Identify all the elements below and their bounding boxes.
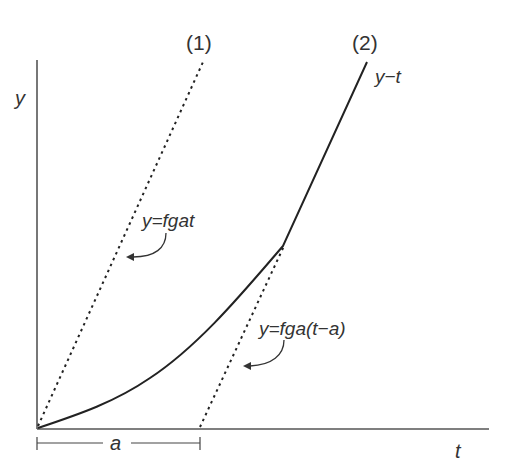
curve-2-label: (2) [352, 31, 378, 54]
kinematics-diagram: y t (1) (2) y−t y=fgat y=fga(t−a) a [0, 0, 508, 473]
curve-2-solid [38, 62, 367, 428]
pointer-arrow-1 [133, 233, 166, 257]
x-axis-label: t [455, 440, 462, 462]
curve-1-dotted-line [38, 62, 203, 426]
curve-1-label: (1) [186, 31, 212, 54]
pointer-arrow-2 [250, 340, 284, 366]
y-axis-label: y [13, 87, 26, 109]
equation-2: y=fga(t−a) [257, 318, 346, 339]
arrowhead-1-icon [126, 253, 134, 261]
arrowhead-2-icon [243, 362, 251, 370]
interval-label: a [110, 432, 121, 454]
curve-2-name: y−t [373, 66, 402, 87]
equation-1: y=fgat [140, 210, 195, 231]
